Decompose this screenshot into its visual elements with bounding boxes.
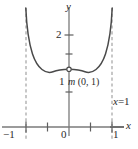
y-tick-label-1: 1 xyxy=(59,76,65,87)
minimum-point-coordinates: (0, 1) xyxy=(78,76,100,87)
y-axis-label: y xyxy=(66,1,71,12)
x-tick-label--1: −1 xyxy=(3,129,15,140)
graph-figure: y x 2 1 m (0, 1) x=1 −1 0 1 xyxy=(0,0,138,149)
curve-left-branch xyxy=(26,8,69,72)
asymptote-value: 1 xyxy=(124,95,130,107)
x-tick-label-1: 1 xyxy=(113,129,119,140)
asymptote-right-label: x=1 xyxy=(113,96,130,107)
x-axis-label: x xyxy=(126,120,131,131)
y-tick-label-2: 2 xyxy=(56,29,62,40)
minimum-point-marker xyxy=(67,67,71,71)
x-tick-label-0: 0 xyxy=(61,129,67,140)
plot-canvas xyxy=(0,0,138,149)
minimum-point-symbol: m xyxy=(68,76,75,87)
curve-right-branch xyxy=(69,8,112,72)
minimum-point-label: m (0, 1) xyxy=(68,77,99,87)
